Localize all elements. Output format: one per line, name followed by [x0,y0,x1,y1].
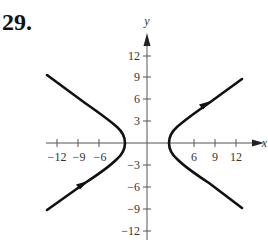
y-tick-label: −9 [127,202,140,216]
x-tick-label: −12 [48,150,67,164]
y-tick-label: −3 [127,158,140,172]
x-tick-label: 9 [212,150,218,164]
x-axis-label: x [261,136,268,150]
y-tick-label: 3 [134,114,140,128]
hyperbola-plot: −12 −9 −6 6 9 12 12 9 6 3 −3 −6 −9 −12 x… [0,0,268,243]
y-tick-label: −12 [121,224,140,238]
axes [46,33,264,240]
y-tick-label: 12 [128,49,140,63]
y-axis-arrow-icon [144,33,151,46]
x-tick-label: −9 [73,150,86,164]
y-tick-label: 9 [134,70,140,84]
y-tick-label: 6 [134,92,140,106]
x-tick-label: −6 [94,150,107,164]
y-axis-label: y [143,14,150,28]
x-tick-label: 12 [230,150,242,164]
x-tick-label: 6 [191,150,197,164]
y-tick-label: −6 [127,180,140,194]
